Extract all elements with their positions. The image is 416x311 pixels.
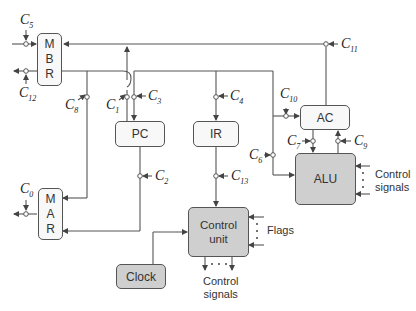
pc-register: PC xyxy=(115,121,165,147)
ac-register: AC xyxy=(300,105,350,130)
c-base: C xyxy=(354,133,363,148)
cu-control-line2: signals xyxy=(203,288,238,301)
c-base: C xyxy=(20,181,29,196)
flags-label: Flags xyxy=(267,224,294,237)
c-sub: 9 xyxy=(363,142,367,151)
label-c9: C9 xyxy=(354,133,367,151)
label-c12: C12 xyxy=(19,85,36,103)
c-sub: 0 xyxy=(29,190,33,199)
c-base: C xyxy=(155,168,164,183)
ac-label: AC xyxy=(317,111,334,125)
control-unit-line2: unit xyxy=(209,232,228,246)
mbr-letter: R xyxy=(45,67,54,82)
control-unit-block: Control unit xyxy=(188,207,249,257)
mbr-register: M B R xyxy=(37,33,62,86)
c-sub: 13 xyxy=(240,177,248,186)
c-base: C xyxy=(20,12,29,27)
c-base: C xyxy=(280,86,289,101)
c-sub: 2 xyxy=(164,177,168,186)
ir-label: IR xyxy=(210,127,222,141)
c-base: C xyxy=(106,97,115,112)
cu-control-line1: Control xyxy=(203,275,238,288)
c-sub: 1 xyxy=(115,106,119,115)
c-sub: 5 xyxy=(29,21,33,30)
cu-control-signals-label: Control signals xyxy=(203,275,238,301)
c-sub: 6 xyxy=(258,156,262,165)
c-base: C xyxy=(19,85,28,100)
c-sub: 12 xyxy=(28,94,36,103)
label-c7: C7 xyxy=(287,133,300,151)
label-c8: C8 xyxy=(65,97,78,115)
c-sub: 8 xyxy=(74,106,78,115)
mar-letter: A xyxy=(46,207,54,222)
c-sub: 7 xyxy=(296,142,300,151)
mbr-letter: B xyxy=(45,52,53,67)
label-c6: C6 xyxy=(249,147,262,165)
c-sub: 4 xyxy=(239,97,243,106)
label-c4: C4 xyxy=(230,88,243,106)
label-c10: C10 xyxy=(280,86,297,104)
c-base: C xyxy=(341,36,350,51)
label-c1: C1 xyxy=(106,97,119,115)
clock-label: Clock xyxy=(126,270,156,284)
alu-control-line2: signals xyxy=(375,181,410,194)
c-sub: 11 xyxy=(350,45,357,54)
c-base: C xyxy=(148,88,157,103)
mar-letter: R xyxy=(46,222,55,237)
mbr-letter: M xyxy=(45,37,55,52)
pc-label: PC xyxy=(132,127,149,141)
mar-letter: M xyxy=(46,192,56,207)
c-base: C xyxy=(287,133,296,148)
mar-register: M A R xyxy=(38,188,63,240)
alu-label: ALU xyxy=(314,172,337,186)
alu-block: ALU xyxy=(295,153,356,205)
alu-control-line1: Control xyxy=(375,168,410,181)
label-c0: C0 xyxy=(20,181,33,199)
c-sub: 10 xyxy=(289,95,297,104)
c-base: C xyxy=(231,168,240,183)
label-c5: C5 xyxy=(20,12,33,30)
label-c13: C13 xyxy=(231,168,248,186)
c-sub: 3 xyxy=(157,97,161,106)
label-c2: C2 xyxy=(155,168,168,186)
alu-control-signals-label: Control signals xyxy=(375,168,410,194)
c-base: C xyxy=(230,88,239,103)
control-unit-line1: Control xyxy=(200,218,237,232)
ir-register: IR xyxy=(193,121,239,147)
label-c3: C3 xyxy=(148,88,161,106)
clock-block: Clock xyxy=(116,264,166,289)
label-c11: C11 xyxy=(341,36,358,54)
c-base: C xyxy=(249,147,258,162)
c-base: C xyxy=(65,97,74,112)
